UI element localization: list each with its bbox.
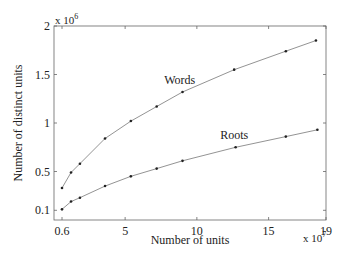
y-tick-label: 1 bbox=[44, 116, 50, 130]
data-point bbox=[104, 185, 107, 188]
data-point bbox=[79, 162, 82, 165]
y-tick-label: 0.1 bbox=[35, 203, 50, 217]
data-point bbox=[61, 187, 64, 190]
data-point bbox=[79, 196, 82, 199]
data-point bbox=[181, 160, 184, 163]
data-point bbox=[233, 68, 236, 71]
data-point bbox=[285, 135, 288, 138]
x-axis: 0.65101519 bbox=[55, 26, 333, 238]
data-point bbox=[130, 120, 133, 123]
data-point bbox=[70, 171, 73, 174]
data-point bbox=[61, 208, 64, 211]
data-point bbox=[285, 50, 288, 53]
data-point bbox=[316, 128, 319, 131]
x-multiplier: x 107 bbox=[303, 230, 326, 244]
data-point bbox=[234, 146, 237, 149]
x-tick-label: 5 bbox=[122, 224, 128, 238]
y-axis-label: Number of distinct units bbox=[11, 64, 25, 181]
data-point bbox=[155, 105, 158, 108]
y-axis: 0.10.511.52 bbox=[35, 19, 326, 217]
series-line-words bbox=[62, 41, 316, 189]
line-chart: 0.65101519 0.10.511.52 WordsRoots Number… bbox=[0, 0, 347, 260]
x-tick-label: 0.6 bbox=[55, 224, 70, 238]
x-axis-label: Number of units bbox=[151, 233, 230, 247]
y-tick-label: 1.5 bbox=[35, 68, 50, 82]
series-group: WordsRoots bbox=[61, 39, 319, 210]
series-label-roots: Roots bbox=[220, 128, 248, 142]
y-tick-label: 0.5 bbox=[35, 165, 50, 179]
series-line-roots bbox=[62, 130, 317, 210]
x-tick-label: 15 bbox=[263, 224, 275, 238]
data-point bbox=[315, 39, 318, 42]
series-label-words: Words bbox=[164, 73, 195, 87]
data-point bbox=[181, 91, 184, 94]
y-multiplier: x 106 bbox=[55, 12, 78, 26]
data-point bbox=[104, 137, 107, 140]
data-point bbox=[155, 167, 158, 170]
data-point bbox=[130, 175, 133, 178]
data-point bbox=[70, 200, 73, 203]
y-tick-label: 2 bbox=[44, 19, 50, 33]
